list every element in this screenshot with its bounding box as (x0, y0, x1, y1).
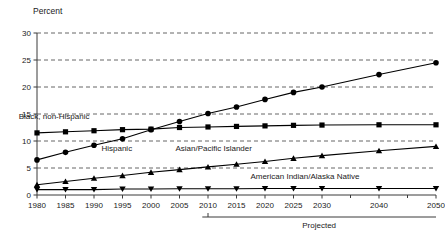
series-1-point-1985 (63, 150, 69, 156)
series-1-point-2010 (205, 111, 211, 117)
x-tick-label-2000: 2000 (142, 201, 160, 210)
series-1-point-2005 (177, 119, 183, 125)
series-0-point-2030 (319, 122, 324, 127)
x-tick-label-2030: 2030 (313, 201, 331, 210)
series-1-point-1980 (34, 157, 40, 163)
series-0-point-1995 (120, 127, 125, 132)
x-tick-label-1995: 1995 (114, 201, 132, 210)
series-0-point-2025 (291, 123, 296, 128)
series-1-point-2025 (291, 90, 297, 96)
x-tick-label-1990: 1990 (85, 201, 103, 210)
x-tick-label-2025: 2025 (285, 201, 303, 210)
series-0-point-1980 (34, 130, 39, 135)
series-label-3: American Indian/Alaska Native (250, 172, 359, 181)
chart-canvas: 051015202530Percent198019851990199520002… (0, 0, 445, 239)
series-0-point-2015 (234, 124, 239, 129)
x-tick-label-2020: 2020 (256, 201, 274, 210)
series-0-point-2040 (376, 122, 381, 127)
y-tick-label-25: 25 (22, 56, 31, 65)
series-1-point-2030 (319, 84, 325, 90)
series-1-point-2020 (262, 97, 268, 103)
population-projection-chart: 051015202530Percent198019851990199520002… (0, 0, 445, 239)
series-0-point-1990 (91, 128, 96, 133)
series-1-point-2050 (433, 60, 439, 66)
series-0-point-2010 (205, 124, 210, 129)
series-1-point-2040 (376, 72, 382, 78)
y-tick-label-10: 10 (22, 137, 31, 146)
series-0-point-2050 (433, 122, 438, 127)
y-tick-label-5: 5 (27, 164, 32, 173)
series-label-1: Hispanic (101, 144, 132, 153)
y-tick-label-20: 20 (22, 83, 31, 92)
x-tick-label-2010: 2010 (199, 201, 217, 210)
x-tick-label-2005: 2005 (171, 201, 189, 210)
series-1-point-2000 (148, 127, 154, 133)
series-0-point-2020 (262, 123, 267, 128)
series-0-point-2005 (177, 125, 182, 130)
series-1-point-1995 (120, 136, 126, 142)
x-tick-label-2040: 2040 (370, 201, 388, 210)
x-tick-label-1985: 1985 (57, 201, 75, 210)
series-1-point-2015 (234, 104, 240, 110)
x-tick-label-1980: 1980 (28, 201, 46, 210)
y-tick-label-0: 0 (27, 191, 32, 200)
series-label-0: Black, non-Hispanic (19, 112, 90, 121)
x-tick-label-2050: 2050 (427, 201, 445, 210)
projected-label: Projected (302, 221, 336, 230)
series-0-point-1985 (63, 129, 68, 134)
y-axis-title: Percent (33, 6, 63, 16)
series-1-point-1990 (91, 143, 97, 149)
x-tick-label-2015: 2015 (228, 201, 246, 210)
y-tick-label-30: 30 (22, 29, 31, 38)
series-label-2: Asian/Pacific Islander (175, 144, 252, 153)
